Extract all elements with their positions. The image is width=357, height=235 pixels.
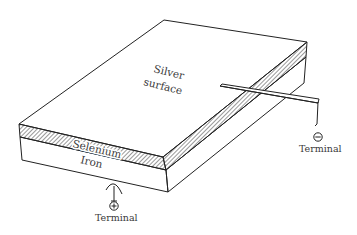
negative-wire [315,102,318,126]
negative-terminal-symbol [314,133,322,141]
positive-terminal-contact [106,184,122,201]
negative-terminal-label: Terminal [299,143,342,154]
positive-terminal-label: Terminal [95,212,138,223]
iron-layer-side [166,57,306,192]
positive-terminal-symbol [110,202,118,210]
iron-label: Iron [80,153,105,170]
selenium-cell-diagram: Terminal Terminal Silver surface Seleniu… [0,0,357,235]
selenium-layer-side [163,42,307,170]
